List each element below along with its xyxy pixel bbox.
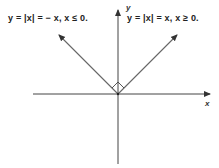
left-ray [59, 35, 118, 94]
right-ray-label: y = |x| = x, x ≥ 0. [127, 13, 199, 23]
left-ray-label: y = |x| = − x, x ≤ 0. [8, 13, 88, 23]
right-ray [118, 35, 177, 94]
x-axis-label: x [205, 99, 209, 108]
abs-value-graph [0, 0, 219, 168]
origin-point [117, 93, 119, 95]
y-axis-label: y [126, 3, 130, 12]
